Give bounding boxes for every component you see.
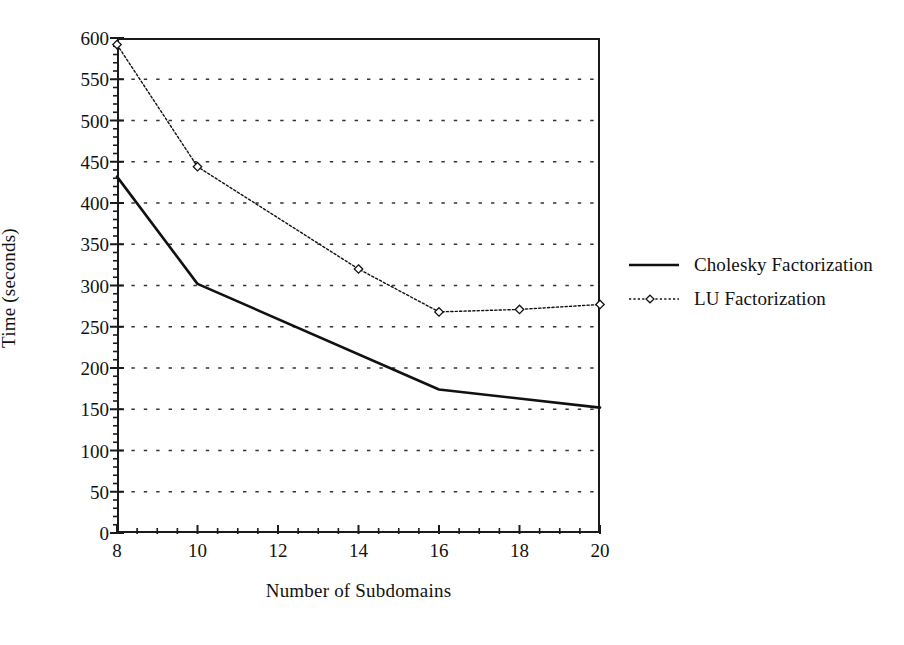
x-axis-tick-label: 20	[570, 541, 630, 560]
y-axis-tick-label: 450	[49, 152, 109, 171]
y-axis-tick-label: 350	[49, 235, 109, 254]
chart-legend: Cholesky Factorization LU Factorization	[628, 248, 898, 316]
data-series-group	[113, 40, 604, 407]
series-marker-1	[596, 300, 604, 308]
series-line-0	[117, 177, 600, 408]
chart-figure: Time (seconds) Number of Subdomains 0501…	[0, 0, 904, 645]
legend-label-cholesky: Cholesky Factorization	[694, 254, 873, 276]
y-axis-tick-labels: 050100150200250300350400450500550600	[47, 38, 109, 533]
x-axis-tick-label: 12	[248, 541, 308, 560]
y-axis-tick-label: 300	[49, 276, 109, 295]
y-axis-tick-label: 150	[49, 400, 109, 419]
y-axis-tick-label: 600	[49, 29, 109, 48]
legend-label-lu: LU Factorization	[694, 288, 826, 310]
x-axis-tick-label: 8	[87, 541, 147, 560]
series-marker-1	[354, 265, 362, 273]
y-axis-tick-label: 100	[49, 441, 109, 460]
y-axis-tick-label: 550	[49, 70, 109, 89]
series-marker-1	[193, 163, 201, 171]
x-axis-tick-label: 18	[490, 541, 550, 560]
series-marker-1	[113, 40, 121, 48]
y-axis-tick-label: 200	[49, 359, 109, 378]
x-axis-tick-label: 10	[168, 541, 228, 560]
legend-item-cholesky: Cholesky Factorization	[628, 248, 898, 282]
y-axis-tick-label: 0	[49, 524, 109, 543]
legend-item-lu: LU Factorization	[628, 282, 898, 316]
y-axis-tick-label: 250	[49, 317, 109, 336]
y-axis-tick-label: 400	[49, 194, 109, 213]
gridlines	[119, 79, 598, 492]
x-axis-tick-label: 14	[329, 541, 389, 560]
legend-swatch-dotted-line-diamond-marker	[628, 292, 680, 306]
x-axis-tick-labels: 8101214161820	[117, 541, 600, 569]
series-marker-1	[435, 308, 443, 316]
legend-swatch-solid-line	[628, 258, 680, 272]
x-axis-tick-label: 16	[409, 541, 469, 560]
y-axis-tick-label: 500	[49, 111, 109, 130]
series-marker-1	[515, 305, 523, 313]
y-axis-tick-label: 50	[49, 482, 109, 501]
